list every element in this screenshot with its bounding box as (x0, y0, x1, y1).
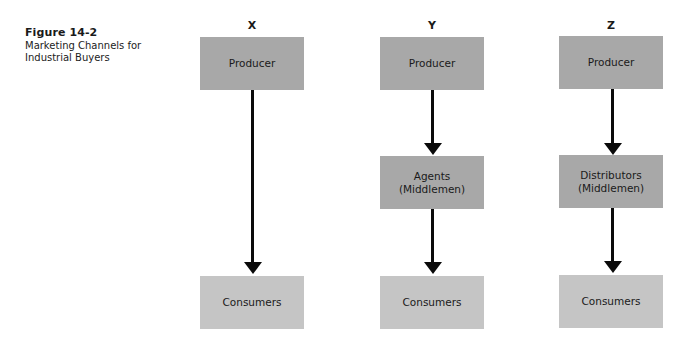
arrow-down-icon (424, 262, 442, 274)
arrow-shaft-y-2 (431, 209, 434, 262)
consumers-label: Consumers (222, 296, 281, 309)
consumers-box-x: Consumers (200, 276, 304, 329)
producer-box-x: Producer (200, 37, 304, 90)
producer-box-y: Producer (380, 37, 484, 90)
figure-description: Marketing Channels for Industrial Buyers (25, 40, 160, 64)
consumers-label: Consumers (581, 295, 640, 308)
producer-label: Producer (588, 56, 635, 69)
arrow-down-icon (244, 262, 262, 274)
consumers-box-z: Consumers (559, 275, 663, 328)
arrow-shaft-y-1 (431, 90, 434, 143)
arrow-down-icon (424, 143, 442, 155)
agents-box-y: Agents (Middlemen) (380, 156, 484, 209)
consumers-label: Consumers (402, 296, 461, 309)
producer-label: Producer (229, 57, 276, 70)
column-label-z: Z (559, 19, 663, 32)
figure-caption: Figure 14-2 Marketing Channels for Indus… (25, 26, 160, 64)
arrow-shaft-z-2 (611, 208, 614, 261)
arrow-shaft-z-1 (611, 89, 614, 143)
producer-box-z: Producer (559, 36, 663, 89)
consumers-box-y: Consumers (380, 276, 484, 329)
producer-label: Producer (409, 57, 456, 70)
column-label-x: X (200, 19, 304, 32)
distributors-box-z: Distributors (Middlemen) (559, 155, 663, 208)
arrow-down-icon (604, 261, 622, 273)
column-label-y: Y (380, 19, 484, 32)
agents-label: Agents (Middlemen) (394, 170, 470, 196)
arrow-shaft-x (251, 90, 254, 262)
figure-number: Figure 14-2 (25, 26, 160, 39)
distributors-label: Distributors (Middlemen) (569, 169, 653, 195)
arrow-down-icon (604, 143, 622, 155)
